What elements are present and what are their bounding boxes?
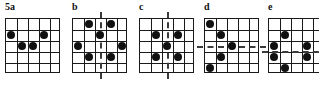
grid-dot — [152, 31, 160, 39]
panel-label-b: b — [72, 1, 78, 13]
grid-dot — [85, 20, 93, 28]
grid-e — [268, 18, 319, 74]
grid-line-horizontal — [6, 30, 59, 31]
panel-label-d: d — [204, 1, 210, 13]
grid-dot — [206, 64, 214, 72]
grid-line-horizontal — [269, 63, 319, 64]
grid-dot — [18, 42, 26, 50]
grid-line-horizontal — [269, 30, 319, 31]
grid-dot — [107, 53, 115, 61]
grid-dot — [270, 53, 278, 61]
grid-line-vertical — [151, 19, 152, 72]
grid-line-vertical — [106, 19, 107, 72]
grid-b — [72, 18, 128, 74]
grid-dot — [85, 53, 93, 61]
panel-5a: 5a — [0, 0, 62, 86]
grid-dot — [228, 42, 236, 50]
grid-dot — [217, 31, 225, 39]
panel-label-e: e — [268, 1, 272, 13]
grid-dot — [29, 42, 37, 50]
grid-dot — [281, 64, 289, 72]
grid-dot — [40, 31, 48, 39]
grid-d — [204, 18, 260, 74]
grid-line-horizontal — [6, 63, 59, 64]
grid-dot — [303, 42, 311, 50]
grid-line-vertical — [291, 19, 292, 72]
grid-line-vertical — [50, 19, 51, 72]
grid-line-horizontal — [269, 41, 319, 42]
grid-dot — [163, 42, 171, 50]
grid-c — [139, 18, 195, 74]
grid-dot — [217, 53, 225, 61]
grid-line-vertical — [39, 19, 40, 72]
grid-dot — [281, 31, 289, 39]
grid-line-vertical — [184, 19, 185, 72]
grid-dot — [270, 42, 278, 50]
grid-dot — [174, 31, 182, 39]
grid-dot — [303, 53, 311, 61]
panel-c: c — [134, 0, 196, 86]
grid-dot — [206, 20, 214, 28]
grid-dot — [74, 42, 82, 50]
grid-line-horizontal — [6, 52, 59, 53]
panel-label-5a: 5a — [5, 1, 15, 13]
symmetry-axis-horizontal — [262, 51, 319, 53]
panel-d: d — [199, 0, 261, 86]
panel-e: e — [263, 0, 319, 86]
panel-b: b — [67, 0, 129, 86]
grid-dot — [107, 20, 115, 28]
grid-dot — [152, 53, 160, 61]
grid-line-horizontal — [205, 52, 258, 53]
figure-canvas: 5abcde — [0, 0, 319, 86]
grid-line-horizontal — [205, 63, 258, 64]
symmetry-axis-vertical — [100, 12, 102, 79]
grid-dot — [7, 31, 15, 39]
grid-dot — [118, 42, 126, 50]
grid-dot — [174, 53, 182, 61]
grid-line-vertical — [313, 19, 314, 72]
grid-line-vertical — [173, 19, 174, 72]
grid-line-vertical — [95, 19, 96, 72]
panel-label-c: c — [139, 1, 143, 13]
grid-dot — [96, 31, 104, 39]
grid-line-horizontal — [205, 30, 258, 31]
grid-line-vertical — [84, 19, 85, 72]
grid-5a — [5, 18, 61, 74]
grid-line-vertical — [280, 19, 281, 72]
